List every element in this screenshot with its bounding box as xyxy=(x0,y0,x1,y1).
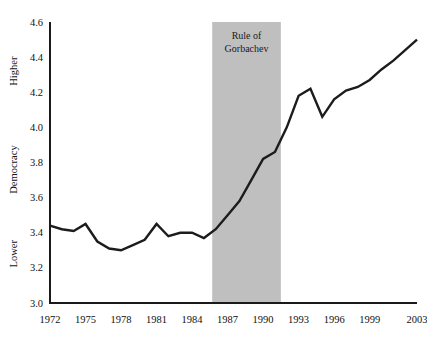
y-tick-label: 3.4 xyxy=(30,227,44,238)
x-tick-label: 1987 xyxy=(217,314,238,325)
x-tick-label: 1975 xyxy=(75,314,96,325)
y-tick-label: 4.4 xyxy=(30,52,44,63)
y-tick-label: 4.6 xyxy=(30,17,43,28)
y-axis-label-higher: Higher xyxy=(8,56,19,86)
y-tick-label: 4.0 xyxy=(30,122,43,133)
democracy-trend-chart: 3.03.23.43.63.84.04.24.44.6 197219751978… xyxy=(0,0,427,342)
y-tick-label: 3.8 xyxy=(30,157,43,168)
x-tick-label: 1999 xyxy=(359,314,380,325)
x-tick-label: 1990 xyxy=(253,314,274,325)
y-axis-label-lower: Lower xyxy=(8,240,19,268)
axis-title-layer: HigherDemocracyLower xyxy=(8,56,19,267)
y-tick-label: 3.6 xyxy=(30,192,43,203)
x-tick-label: 2003 xyxy=(407,314,427,325)
x-tick-label: 1984 xyxy=(182,314,204,325)
band-label-line2: Gorbachev xyxy=(225,43,269,54)
x-axis-tick-labels: 1972197519781981198419871990199319961999… xyxy=(40,314,427,325)
y-axis-tick-labels: 3.03.23.43.63.84.04.24.44.6 xyxy=(30,17,44,309)
x-tick-label: 1978 xyxy=(111,314,132,325)
y-tick-label: 3.2 xyxy=(30,262,43,273)
shaded-period-band-layer xyxy=(212,22,281,303)
y-tick-label: 3.0 xyxy=(30,298,43,309)
y-axis-label-democracy: Democracy xyxy=(8,145,19,194)
x-tick-label: 1996 xyxy=(324,314,345,325)
band-label-line1: Rule of xyxy=(232,30,262,41)
x-tick-label: 1981 xyxy=(146,314,167,325)
gorbachev-band xyxy=(212,22,281,303)
x-tick-label: 1993 xyxy=(288,314,309,325)
x-tick-label: 1972 xyxy=(40,314,61,325)
y-tick-label: 4.2 xyxy=(30,87,43,98)
chart-canvas: 3.03.23.43.63.84.04.24.44.6 197219751978… xyxy=(0,0,427,342)
